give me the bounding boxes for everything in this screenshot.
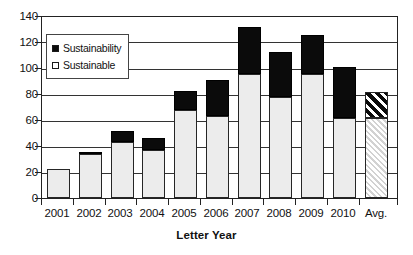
legend: Sustainability Sustainable [46, 34, 129, 79]
bar-2010-sustainable [333, 118, 356, 198]
y-axis-label-60: 60 [4, 115, 38, 127]
x-axis-tick-3 [136, 199, 137, 205]
bar-2008-sustainable [269, 97, 292, 198]
x-axis-tick-9 [327, 199, 328, 205]
bar-2003-sustainable [111, 142, 134, 198]
x-axis-tick-7 [263, 199, 264, 205]
bar-2004-sustainable [142, 150, 165, 198]
x-axis-tick-1 [73, 199, 74, 205]
x-axis-tick-2 [105, 199, 106, 205]
x-axis-title: Letter Year [0, 229, 413, 241]
bar-2009-sustainability [301, 35, 324, 74]
x-axis-tick-11 [397, 199, 398, 205]
bar-2002-sustainable [79, 154, 102, 198]
y-axis-label-20: 20 [4, 167, 38, 179]
y-axis-label-140: 140 [4, 11, 38, 23]
bar-2008-sustainability [269, 52, 292, 98]
legend-label-sustainability: Sustainability [63, 43, 121, 54]
bar-2010-sustainability [333, 67, 356, 118]
bar-2009-sustainable [301, 74, 324, 198]
x-axis-tick-10 [359, 199, 360, 205]
y-axis-label-0: 0 [4, 193, 38, 205]
filled-square-icon [52, 45, 59, 52]
y-axis-label-120: 120 [4, 37, 38, 49]
bar-avg-sustainable [365, 118, 388, 198]
empty-square-icon [52, 62, 59, 69]
x-axis-tick-5 [200, 199, 201, 205]
x-axis-tick-0 [41, 199, 42, 205]
bar-2005-sustainable [174, 110, 197, 198]
bar-2003-sustainability [111, 131, 134, 142]
bar-2002-sustainability [79, 152, 102, 154]
x-axis-tick-6 [232, 199, 233, 205]
legend-label-sustainable: Sustainable [63, 60, 115, 71]
x-axis-tick-4 [168, 199, 169, 205]
bar-2004-sustainability [142, 138, 165, 150]
bar-2006-sustainability [206, 80, 229, 115]
bar-2001-sustainable [47, 169, 70, 198]
y-axis-label-80: 80 [4, 89, 38, 101]
x-axis-label-avg: Avg. [356, 207, 396, 220]
legend-item-sustainability: Sustainability [52, 40, 128, 57]
bar-2007-sustainability [238, 27, 261, 74]
bar-chart: 140 120 100 80 60 40 20 0 [0, 0, 413, 255]
x-axis-tick-8 [295, 199, 296, 205]
bar-2005-sustainability [174, 91, 197, 111]
bar-avg-sustainability [365, 92, 388, 118]
legend-item-sustainable: Sustainable [52, 57, 128, 74]
bar-2006-sustainable [206, 116, 229, 198]
y-axis-label-100: 100 [4, 63, 38, 75]
y-axis-label-40: 40 [4, 141, 38, 153]
plot-area: Sustainability Sustainable [41, 16, 398, 199]
bar-2007-sustainable [238, 74, 261, 198]
